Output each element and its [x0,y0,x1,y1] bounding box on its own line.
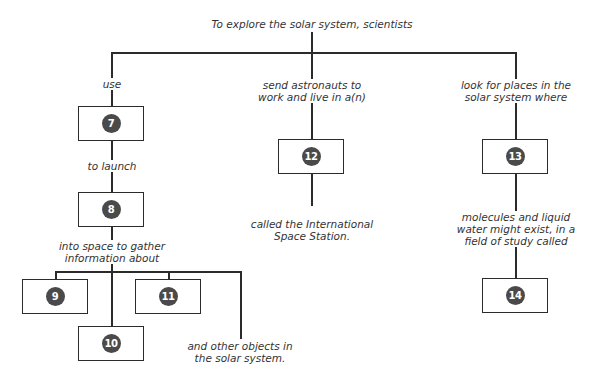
answer-box-9[interactable]: 9 [22,279,88,314]
answer-box-10[interactable]: 10 [78,326,144,361]
label-other-objects: and other objects in the solar system. [180,340,300,364]
number-badge-12: 12 [302,147,321,166]
number-badge-7: 7 [102,114,121,133]
label-gather-info: into space to gather information about [50,240,174,264]
connector-to-other-objects [240,271,242,339]
connector-to-9 [55,271,57,279]
number-badge-10: 10 [102,334,121,353]
label-iss-line1: called the International [242,218,382,230]
connector-12-iss [311,173,313,206]
label-send-astronauts: send astronauts to work and live in a(n) [250,79,374,103]
label-astronauts-line2: work and live in a(n) [250,91,374,103]
label-use: use [96,78,128,90]
top-horizontal-connector [111,52,516,54]
label-other-line1: and other objects in [180,340,300,352]
bottom-left-horizontal-connector [55,271,242,273]
label-look-for-places: look for places in the solar system wher… [452,79,580,103]
number-badge-13: 13 [506,147,525,166]
label-molecules-line2: water might exist, in a [452,223,580,235]
answer-box-13[interactable]: 13 [482,139,548,174]
label-gather-line1: into space to gather [50,240,174,252]
number-badge-11: 11 [159,287,178,306]
label-molecules-line3: field of study called [452,235,580,247]
root-label: To explore the solar system, scientists [200,18,424,30]
answer-box-11[interactable]: 11 [135,279,201,314]
label-places-line1: look for places in the [452,79,580,91]
label-molecules: molecules and liquid water might exist, … [452,211,580,247]
answer-box-7[interactable]: 7 [78,106,144,141]
label-gather-line2: information about [50,252,174,264]
label-astronauts-line1: send astronauts to [250,79,374,91]
connector-to-11 [168,271,170,279]
label-to-launch: to launch [80,160,144,172]
answer-box-8[interactable]: 8 [78,192,144,227]
answer-box-12[interactable]: 12 [278,139,344,174]
label-places-line2: solar system where [452,91,580,103]
number-badge-9: 9 [46,287,65,306]
label-molecules-line1: molecules and liquid [452,211,580,223]
connector-to-10 [111,271,113,327]
root-connector [311,32,313,54]
number-badge-14: 14 [506,286,525,305]
answer-box-14[interactable]: 14 [482,278,548,313]
label-iss-line2: Space Station. [242,230,382,242]
label-other-line2: the solar system. [180,352,300,364]
label-iss: called the International Space Station. [242,218,382,242]
number-badge-8: 8 [102,200,121,219]
